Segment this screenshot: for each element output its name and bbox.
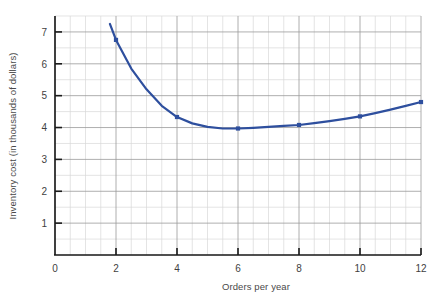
- y-tick-label: 1: [41, 218, 47, 229]
- data-point-marker: [175, 115, 179, 119]
- data-point-marker: [358, 114, 362, 118]
- x-tick-label: 6: [235, 263, 241, 274]
- x-tick-label: 10: [354, 263, 366, 274]
- data-point-marker: [236, 126, 240, 130]
- chart-background: [0, 0, 448, 303]
- x-tick-label: 0: [52, 263, 58, 274]
- y-tick-label: 3: [41, 154, 47, 165]
- x-tick-label: 12: [415, 263, 427, 274]
- y-tick-label: 2: [41, 186, 47, 197]
- data-point-marker: [297, 123, 301, 127]
- data-point-marker: [419, 100, 423, 104]
- x-tick-label: 8: [296, 263, 302, 274]
- y-tick-label: 6: [41, 59, 47, 70]
- y-tick-label: 5: [41, 90, 47, 101]
- x-axis-title: Orders per year: [222, 281, 290, 292]
- data-point-marker: [114, 38, 118, 42]
- x-tick-label: 2: [113, 263, 119, 274]
- chart-figure: 0246810121234567 Orders per year Invento…: [0, 0, 448, 303]
- y-tick-label: 7: [41, 27, 47, 38]
- x-tick-label: 4: [174, 263, 180, 274]
- y-tick-label: 4: [41, 122, 47, 133]
- y-axis-title: Inventory cost (in thousands of dollars): [7, 52, 18, 219]
